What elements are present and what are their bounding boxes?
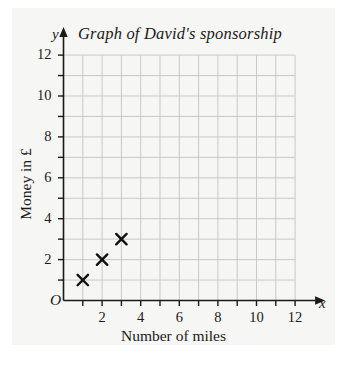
- axis-ticks: [58, 55, 295, 306]
- x-tick-label: 10: [242, 309, 272, 326]
- x-tick-label: 6: [164, 309, 194, 326]
- y-tick-label: 10: [22, 87, 52, 104]
- y-tick-label: 8: [22, 128, 52, 145]
- x-tick-label: 12: [280, 309, 310, 326]
- x-tick-label: 4: [126, 309, 156, 326]
- y-tick-label: 2: [22, 251, 52, 268]
- y-tick-label: 4: [22, 210, 52, 227]
- figure-page: Graph of David's sponsorship y x O Numbe…: [0, 0, 347, 366]
- x-tick-label: 2: [87, 309, 117, 326]
- chart-figure: Graph of David's sponsorship y x O Numbe…: [0, 0, 347, 366]
- y-tick-label: 12: [22, 46, 52, 63]
- y-tick-label: 6: [22, 169, 52, 186]
- x-tick-label: 8: [203, 309, 233, 326]
